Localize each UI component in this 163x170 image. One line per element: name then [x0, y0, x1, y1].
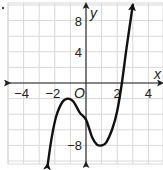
x-tick-label: −4 — [14, 86, 29, 101]
x-tick-label: −2 — [45, 86, 60, 101]
y-tick-label: 4 — [75, 45, 82, 60]
problem-marker-dot — [2, 7, 4, 9]
y-axis-label: y — [89, 5, 98, 21]
origin-label: O — [74, 85, 85, 101]
x-axis-label: x — [153, 66, 162, 82]
function-graph: −4−22484−8 x y O — [0, 0, 163, 170]
x-tick-label: 4 — [145, 86, 152, 101]
y-tick-label: 8 — [75, 14, 82, 29]
y-tick-label: −8 — [67, 138, 82, 153]
